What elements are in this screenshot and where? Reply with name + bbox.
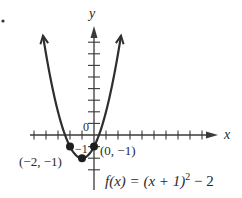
parabola-curve (43, 36, 121, 159)
equation-base: f(x) = (x + 1) (105, 173, 185, 190)
point-label-neg2-neg1: (−2, −1) (19, 154, 62, 169)
point-label-0-neg1: (0, −1) (100, 143, 136, 158)
y-tick-label-neg1: −1 (75, 142, 88, 156)
function-equation: f(x) = (x + 1)2 − 2 (105, 171, 214, 190)
x-axis-arrow-icon (206, 132, 218, 139)
y-axis-label: y (87, 6, 96, 21)
data-point (66, 143, 74, 151)
data-point (90, 143, 98, 151)
list-bullet (1, 19, 4, 22)
equation-constant: − 2 (190, 173, 213, 189)
parabola-graph: y x 0 −1 (−2, −1) (0, −1) f(x) = (x + 1)… (0, 0, 242, 198)
x-axis-label: x (223, 127, 231, 142)
origin-label: 0 (83, 120, 89, 134)
curve-end-arrows (40, 36, 123, 45)
y-axis-arrow-icon (91, 26, 98, 38)
